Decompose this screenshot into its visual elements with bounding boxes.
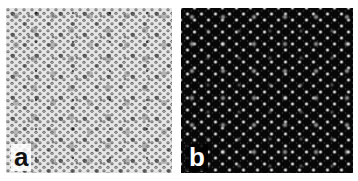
panel-b-label: b	[186, 144, 208, 171]
panel-a-image: a	[6, 8, 172, 173]
panel-a-label: a	[11, 144, 31, 171]
panel-b-image: b	[181, 8, 353, 173]
